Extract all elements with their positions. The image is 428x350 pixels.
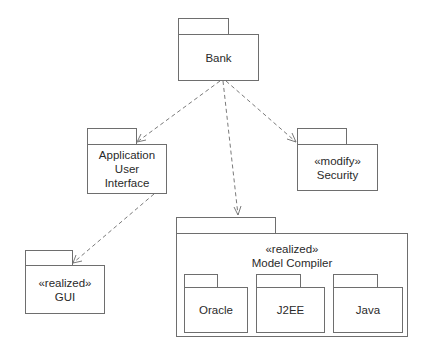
package-name-line: User bbox=[115, 162, 139, 176]
package-name: GUI bbox=[55, 290, 75, 304]
package-name: Java bbox=[356, 303, 380, 317]
package-body: Application User Interface bbox=[87, 144, 167, 194]
package-body: «modify» Security bbox=[297, 144, 378, 191]
package-stereotype: «modify» bbox=[314, 154, 361, 168]
package-body: Java bbox=[333, 287, 403, 333]
dependency-bank-to-app-ui bbox=[137, 81, 220, 142]
package-stereotype: «realized» bbox=[38, 276, 91, 290]
dependency-bank-to-model-compiler bbox=[223, 81, 238, 215]
package-stereotype: «realized» bbox=[265, 242, 318, 256]
package-name: Model Compiler bbox=[252, 256, 333, 270]
package-tab bbox=[176, 217, 276, 234]
dependency-app-ui-to-gui bbox=[73, 194, 154, 263]
package-tab bbox=[297, 128, 347, 145]
package-tab bbox=[87, 128, 137, 145]
package-name-line: Interface bbox=[105, 176, 150, 190]
package-tab bbox=[256, 274, 301, 288]
package-body: Oracle bbox=[184, 287, 248, 333]
package-tab bbox=[333, 274, 378, 288]
package-name: Security bbox=[317, 168, 359, 182]
package-tab bbox=[184, 274, 218, 288]
package-body: «realized» GUI bbox=[25, 265, 105, 314]
package-name-line: Application bbox=[99, 148, 155, 162]
dependency-bank-to-security bbox=[226, 81, 296, 142]
package-name: Bank bbox=[205, 51, 231, 65]
package-tab bbox=[178, 18, 229, 35]
package-body: J2EE bbox=[256, 287, 325, 333]
package-name: Oracle bbox=[199, 303, 233, 317]
package-name: J2EE bbox=[277, 303, 305, 317]
package-body: Bank bbox=[178, 34, 259, 81]
package-tab bbox=[25, 250, 73, 266]
